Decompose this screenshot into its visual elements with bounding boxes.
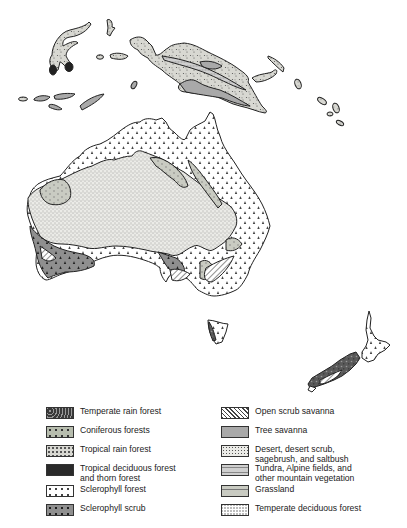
island-dark-2 (65, 63, 73, 72)
legend-label: Desert, desert scrub, sagebrush, and sal… (255, 445, 349, 464)
island-solomon-2 (331, 102, 340, 113)
island-sunda-2 (34, 96, 50, 101)
legend-label: Tropical rain forest (80, 445, 151, 455)
island-timor (80, 94, 104, 110)
island-solomon-4 (336, 119, 345, 126)
swatch-temperate-rain-forest (46, 407, 74, 419)
legend-item-grassland: Grassland (221, 485, 294, 497)
island-new-guinea (130, 37, 266, 113)
nz-south (308, 352, 360, 388)
swatch-tropical-rain-forest (46, 445, 74, 457)
legend-item-tundra: Tundra, Alpine fields, and other mountai… (221, 464, 354, 483)
legend-label: Tundra, Alpine fields, and other mountai… (255, 464, 354, 483)
swatch-desert (221, 445, 249, 457)
swatch-grassland (221, 485, 249, 497)
swatch-tree-savanna (221, 426, 249, 438)
island-bougainville (293, 78, 302, 89)
island-dark-1 (50, 65, 57, 75)
nz-north (362, 311, 390, 362)
legend-item-tropical-deciduous-forest: Tropical deciduous forest and thorn fore… (46, 464, 176, 483)
island-sunda-1 (19, 97, 28, 101)
legend-item-temperate-deciduous-forest: Temperate deciduous forest (221, 504, 361, 516)
island-solomon-3 (327, 112, 333, 116)
swatch-tropical-deciduous-forest (46, 464, 74, 476)
legend-item-desert: Desert, desert scrub, sagebrush, and sal… (221, 445, 349, 464)
legend-label: Sclerophyll forest (80, 485, 146, 495)
vegetation-map (0, 0, 407, 400)
swatch-temperate-deciduous-forest (221, 504, 249, 516)
legend-item-sclerophyll-forest: Sclerophyll forest (46, 485, 146, 497)
island-solomon-1 (316, 96, 327, 106)
legend-item-tropical-rain-forest: Tropical rain forest (46, 445, 151, 457)
swatch-sclerophyll-forest (46, 485, 74, 497)
legend-item-open-scrub-savanna: Open scrub savanna (221, 407, 334, 419)
island-small-3 (130, 80, 138, 89)
legend-label: Sclerophyll scrub (80, 504, 145, 514)
legend-item-coniferous-forests: Coniferous forests (46, 426, 150, 438)
island-small-1 (97, 55, 104, 59)
legend-label: Temperate rain forest (80, 407, 161, 417)
swatch-open-scrub-savanna (221, 407, 249, 419)
legend-label: Grassland (255, 485, 294, 495)
legend-label: Temperate deciduous forest (255, 504, 361, 514)
legend-item-sclerophyll-scrub: Sclerophyll scrub (46, 504, 145, 516)
island-small-2 (110, 53, 128, 59)
swatch-coniferous-forests (46, 426, 74, 438)
legend-label: Coniferous forests (80, 426, 150, 436)
island-sunda-4 (49, 104, 62, 109)
island-halmahera (107, 19, 115, 36)
legend: Temperate rain forest Coniferous forests… (0, 400, 407, 528)
legend-label: Tree savanna (255, 426, 307, 436)
swatch-sclerophyll-scrub (46, 504, 74, 516)
island-sunda-3 (54, 93, 75, 99)
legend-item-tree-savanna: Tree savanna (221, 426, 307, 438)
legend-item-temperate-rain-forest: Temperate rain forest (46, 407, 161, 419)
legend-label: Tropical deciduous forest and thorn fore… (80, 464, 176, 483)
island-new-britain (252, 70, 277, 82)
swatch-tundra (221, 464, 249, 476)
legend-label: Open scrub savanna (255, 407, 334, 417)
